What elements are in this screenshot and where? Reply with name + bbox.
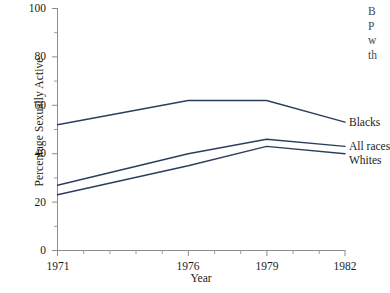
- body-text-line-2: P: [368, 19, 387, 34]
- body-text-line-3: w: [368, 33, 387, 48]
- series-label-blacks: Blacks: [349, 117, 380, 129]
- body-text-line-4: th: [368, 48, 387, 63]
- x-tick-label-1976: 1976: [177, 261, 200, 273]
- body-text-line-1: B: [368, 4, 387, 19]
- y-axis-title: Percentage Sexually Active: [33, 22, 45, 222]
- x-tick-label-1982: 1982: [334, 261, 357, 273]
- series-label-whites: Whites: [349, 155, 382, 167]
- x-tick-label-1971: 1971: [47, 261, 70, 273]
- x-axis-title: Year: [57, 272, 345, 284]
- body-text-clipped: B P w th: [368, 4, 387, 62]
- x-tick-label-1979: 1979: [256, 261, 279, 273]
- series-label-all-races: All races: [349, 141, 390, 153]
